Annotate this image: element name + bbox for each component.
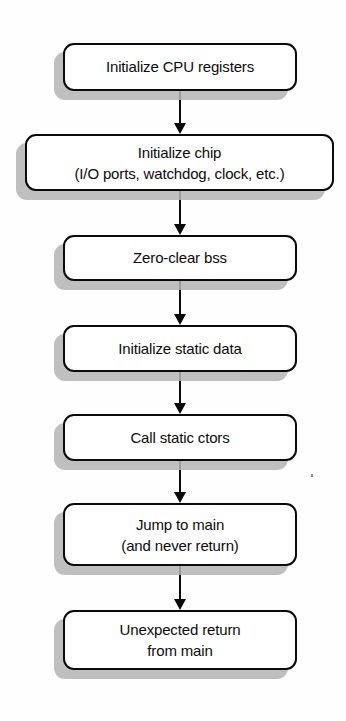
node-label-init-static-data: Initialize static data — [65, 339, 295, 359]
node-label-init-cpu-registers: Initialize CPU registers — [65, 57, 295, 77]
flowchart-node-init-chip: Initialize chip (I/O ports, watchdog, cl… — [25, 134, 334, 191]
flowchart-node-init-cpu-registers: Initialize CPU registers — [63, 43, 297, 91]
flowchart-node-unexpected-return: Unexpected return from main — [63, 610, 297, 670]
scan-artifact-speck — [311, 474, 313, 477]
flowchart-node-zero-clear-bss: Zero-clear bss — [63, 235, 297, 281]
node-label-call-static-ctors: Call static ctors — [65, 428, 295, 448]
arrowhead-icon — [174, 403, 186, 414]
flowchart-node-call-static-ctors: Call static ctors — [63, 414, 297, 461]
node-label-zero-clear-bss: Zero-clear bss — [65, 248, 295, 268]
flowchart-node-jump-to-main: Jump to main (and never return) — [63, 503, 297, 566]
node-label-jump-to-main: Jump to main (and never return) — [65, 514, 295, 556]
arrowhead-icon — [174, 314, 186, 325]
node-label-unexpected-return: Unexpected return from main — [65, 619, 295, 661]
arrowhead-icon — [174, 599, 186, 610]
arrowhead-icon — [174, 123, 186, 134]
arrowhead-icon — [174, 224, 186, 235]
flowchart-node-init-static-data: Initialize static data — [63, 325, 297, 372]
arrowhead-icon — [174, 492, 186, 503]
flowchart-canvas: Initialize CPU registersInitialize chip … — [0, 0, 346, 721]
node-label-init-chip: Initialize chip (I/O ports, watchdog, cl… — [27, 142, 332, 184]
